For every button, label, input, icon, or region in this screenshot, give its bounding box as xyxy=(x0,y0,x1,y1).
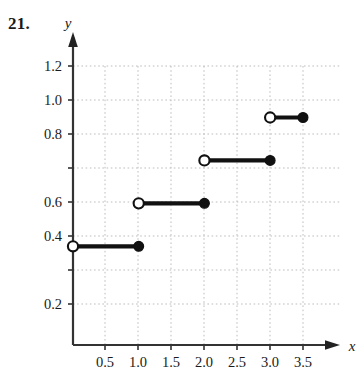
x-tick-label-0.5: 0.5 xyxy=(96,354,114,370)
open-endpoint-marker xyxy=(199,155,209,165)
y-tick-label-0.4: 0.4 xyxy=(44,228,63,244)
step-function-series xyxy=(68,112,308,251)
step-function-figure: 21. xyxy=(0,0,362,373)
chart-canvas: 1.2 1.0 0.8 0.6 0.4 0.2 0.5 1.0 1.5 2.0 … xyxy=(0,0,362,373)
x-tick-label-3.5: 3.5 xyxy=(294,354,312,370)
x-tick-label-2.0: 2.0 xyxy=(195,354,213,370)
closed-endpoint-marker xyxy=(265,156,275,166)
y-tick-label-0.2: 0.2 xyxy=(44,296,62,312)
problem-number-label: 21. xyxy=(8,14,30,34)
x-axis-label: x xyxy=(348,338,356,354)
closed-endpoint-marker xyxy=(298,113,308,123)
y-axis-label: y xyxy=(63,15,72,31)
grid-horizontal xyxy=(73,66,340,304)
y-tick-label-0.8: 0.8 xyxy=(44,126,62,142)
open-endpoint-marker xyxy=(68,241,78,251)
x-tick-label-2.5: 2.5 xyxy=(228,354,246,370)
y-tick-label-1.2: 1.2 xyxy=(44,58,62,74)
x-tick-label-1.0: 1.0 xyxy=(129,354,147,370)
x-tick-label-3.0: 3.0 xyxy=(261,354,279,370)
y-tick-label-0.6: 0.6 xyxy=(44,194,62,210)
closed-endpoint-marker xyxy=(200,198,210,208)
y-axis xyxy=(68,32,78,345)
closed-endpoint-marker xyxy=(134,241,144,251)
open-endpoint-marker xyxy=(134,198,144,208)
x-axis xyxy=(73,340,340,350)
y-tick-label-1.0: 1.0 xyxy=(44,92,62,108)
open-endpoint-marker xyxy=(265,112,275,122)
x-tick-label-1.5: 1.5 xyxy=(162,354,180,370)
